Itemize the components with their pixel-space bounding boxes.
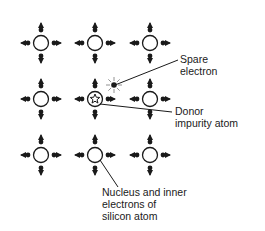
silicon-atom [88,36,103,51]
silicon-atom [143,36,158,51]
donor-impurity-label: Donor impurity atom [175,105,238,129]
silicon-atom [143,148,158,163]
silicon-atom [34,92,49,107]
donor-leader-line [100,104,172,112]
silicon-atom [34,148,49,163]
spare-electron [106,77,122,93]
silicon-atom [143,92,158,107]
nucleus-leader-line [100,160,118,187]
spare-electron-leader-line [115,60,178,85]
spare-electron-label: Spare electron [180,53,218,77]
silicon-lattice-diagram: Spare electron Donor impurity atom Nucle… [0,0,265,231]
nucleus-label: Nucleus and inner electrons of silicon a… [102,186,190,222]
silicon-atom [34,36,49,51]
